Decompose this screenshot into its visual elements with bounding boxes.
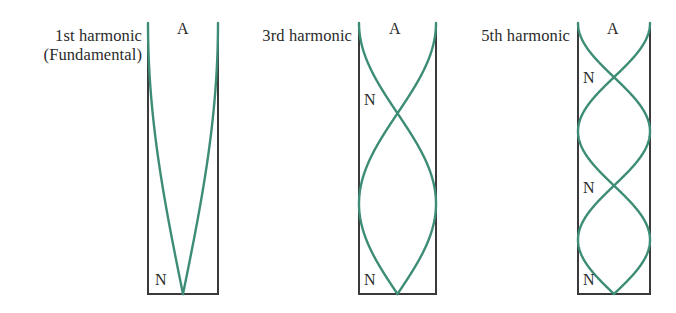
harmonic-panel: 5th harmonicANNN <box>0 0 676 313</box>
harmonics-diagram: 1st harmonic(Fundamental)AN3rd harmonicA… <box>0 0 676 313</box>
node-label: N <box>583 70 595 86</box>
tube-and-wave-fifth-harmonic <box>0 0 676 313</box>
node-label: N <box>583 272 595 288</box>
antinode-label: A <box>607 21 619 37</box>
node-label: N <box>583 180 595 196</box>
